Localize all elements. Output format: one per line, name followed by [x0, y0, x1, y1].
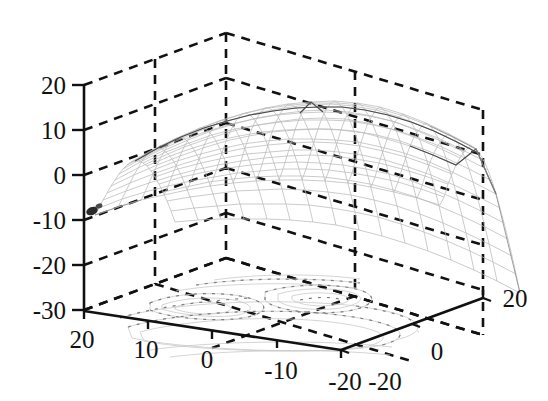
plot-canvas: 20 10 0 -10 -20 -30 20 10 0 -10 -20 -20 …: [0, 0, 548, 401]
y-tick-label-1: 0: [431, 338, 444, 365]
x-tick-label-4: -20: [328, 368, 361, 395]
x-tick-label-3: -10: [264, 357, 297, 384]
figure-3d-surface-plot: 20 10 0 -10 -20 -30 20 10 0 -10 -20 -20 …: [0, 0, 548, 401]
y-axis-tick-labels: -20 0 20: [368, 285, 527, 395]
floor-contour-projection: [120, 275, 419, 357]
z-tick-label-5: -30: [33, 297, 66, 324]
x-tick-label-2: 0: [201, 346, 214, 373]
surface-mesh: [95, 101, 520, 293]
z-tick-label-4: -20: [33, 252, 66, 279]
surface-ridge-highlights: [95, 102, 520, 293]
z-tick-label-0: 20: [41, 72, 66, 99]
z-tick-label-3: -10: [33, 207, 66, 234]
z-axis-ticks: [72, 85, 84, 310]
y-tick-label-2: 20: [503, 285, 528, 312]
y-tick-label-0: -20: [368, 368, 401, 395]
x-tick-label-0: 20: [70, 326, 95, 353]
z-tick-label-2: 0: [54, 162, 67, 189]
z-axis-tick-labels: 20 10 0 -10 -20 -30: [33, 72, 66, 324]
x-tick-label-1: 10: [134, 336, 159, 363]
z-tick-label-1: 10: [41, 117, 66, 144]
x-axis-tick-labels: 20 10 0 -10 -20: [70, 326, 362, 395]
